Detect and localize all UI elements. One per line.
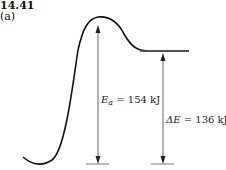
delta-e-symbol: ΔE — [166, 114, 181, 125]
energy-profile-diagram — [0, 0, 226, 170]
energy-change-label: ΔE = 136 kJ — [166, 114, 226, 126]
activation-energy-label: Ea = 154 kJ — [101, 94, 160, 109]
energy-curve — [23, 17, 189, 164]
ea-value: = 154 kJ — [116, 94, 160, 105]
delta-e-value: = 136 kJ — [184, 114, 226, 125]
arrow-head-up-icon — [96, 25, 101, 33]
arrow-head-down-icon — [161, 156, 166, 164]
arrow-head-down-icon — [96, 156, 101, 164]
ea-subscript: a — [108, 98, 113, 107]
arrow-head-up-icon — [161, 53, 166, 61]
